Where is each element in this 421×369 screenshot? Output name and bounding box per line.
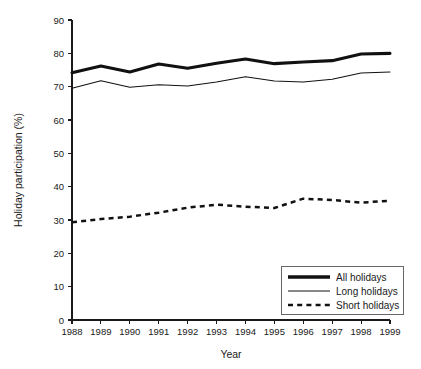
x-tick-label: 1991 (148, 326, 169, 337)
series-line-all-holidays (72, 53, 390, 72)
y-tick-label: 30 (53, 215, 64, 226)
x-tick-label: 1999 (379, 326, 400, 337)
plot-series (72, 53, 390, 222)
x-axis: 1988198919901991199219931994199519961997… (61, 320, 400, 337)
x-tick-label: 1998 (351, 326, 372, 337)
y-tick-label: 10 (53, 281, 64, 292)
x-tick-label: 1992 (177, 326, 198, 337)
legend: All holidays Long holidays Short holiday… (281, 266, 403, 314)
x-axis-title: Year (220, 348, 242, 360)
holiday-participation-chart: 0102030405060708090 19881989199019911992… (0, 0, 421, 369)
y-tick-label: 80 (53, 48, 64, 59)
y-tick-label: 90 (53, 15, 64, 26)
y-axis-title: Holiday participation (%) (12, 113, 24, 227)
x-tick-label: 1993 (206, 326, 227, 337)
x-tick-label: 1989 (90, 326, 111, 337)
series-line-long-holidays (72, 72, 390, 88)
chart-canvas: 0102030405060708090 19881989199019911992… (0, 0, 421, 369)
y-tick-label: 20 (53, 248, 64, 259)
y-tick-label: 40 (53, 181, 64, 192)
x-tick-label: 1994 (235, 326, 256, 337)
x-tick-label: 1988 (61, 326, 82, 337)
y-tick-label: 50 (53, 148, 64, 159)
y-tick-label: 70 (53, 81, 64, 92)
x-tick-label: 1995 (264, 326, 285, 337)
legend-label-long-holidays: Long holidays (336, 286, 398, 297)
y-axis: 0102030405060708090 (53, 15, 72, 326)
x-tick-label: 1996 (293, 326, 314, 337)
legend-label-all-holidays: All holidays (336, 272, 387, 283)
legend-label-short-holidays: Short holidays (336, 300, 399, 311)
x-tick-label: 1990 (119, 326, 140, 337)
y-tick-label: 0 (59, 315, 64, 326)
x-tick-label: 1997 (322, 326, 343, 337)
y-tick-label: 60 (53, 115, 64, 126)
series-line-short-holidays (72, 199, 390, 223)
